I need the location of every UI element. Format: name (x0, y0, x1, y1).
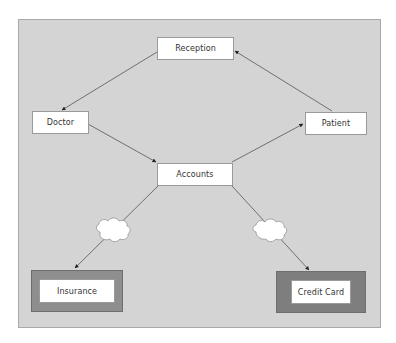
credit-card-node: Credit Card (291, 280, 351, 304)
doctor-label: Doctor (47, 118, 74, 127)
insurance-label: Insurance (57, 287, 97, 296)
cloud-icon (96, 218, 130, 242)
cloud-icon (253, 219, 287, 242)
doctor-node: Doctor (32, 111, 89, 134)
reception-node: Reception (157, 37, 234, 60)
patient-node: Patient (305, 112, 367, 135)
edge-doctor-accounts (88, 124, 156, 162)
accounts-node: Accounts (157, 163, 233, 186)
credit-card-label: Credit Card (298, 288, 344, 297)
patient-label: Patient (322, 119, 351, 128)
reception-label: Reception (175, 44, 216, 53)
edge-reception-doctor (62, 52, 157, 110)
edge-accounts-patient (232, 124, 303, 162)
edge-patient-reception (235, 51, 332, 111)
accounts-label: Accounts (176, 170, 213, 179)
insurance-node: Insurance (39, 279, 115, 303)
